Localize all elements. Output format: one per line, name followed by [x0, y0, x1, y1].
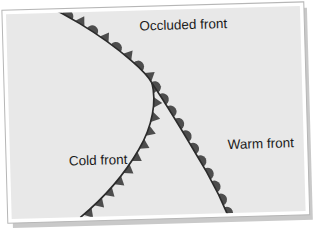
label-cold: Cold front — [69, 152, 128, 169]
diagram-panel: Occluded frontCold frontWarm front — [1, 0, 309, 225]
label-occluded: Occluded front — [139, 16, 227, 33]
front-symbol-semicircle — [36, 0, 48, 6]
panel-background — [6, 6, 306, 219]
figure-canvas: Occluded frontCold frontWarm front — [0, 0, 317, 241]
weather-front-figure: Occluded frontCold frontWarm front — [0, 0, 317, 241]
label-warm: Warm front — [227, 135, 294, 152]
